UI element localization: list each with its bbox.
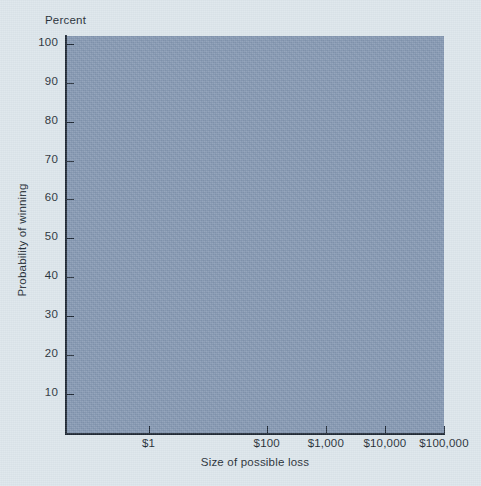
y-axis-unit-label: Percent bbox=[45, 14, 86, 26]
x-axis-tick-mark bbox=[149, 426, 150, 433]
y-axis-tick-mark bbox=[67, 83, 74, 84]
y-axis-tick-label: 90 bbox=[0, 75, 58, 87]
y-axis-tick-mark bbox=[67, 122, 74, 123]
y-axis-tick-mark bbox=[67, 44, 74, 45]
y-axis-tick-label: 60 bbox=[0, 191, 58, 203]
y-axis-tick-mark bbox=[67, 277, 74, 278]
x-axis-title: Size of possible loss bbox=[66, 456, 444, 468]
x-axis-tick-mark bbox=[385, 426, 386, 433]
x-axis-tick-mark bbox=[326, 426, 327, 433]
y-axis-tick-mark bbox=[67, 238, 74, 239]
y-axis-tick-mark bbox=[67, 161, 74, 162]
y-axis-tick-label: 100 bbox=[0, 36, 58, 48]
y-axis-tick-label: 30 bbox=[0, 308, 58, 320]
x-axis-tick-label: $10,000 bbox=[363, 437, 406, 449]
y-axis-tick-label: 40 bbox=[0, 269, 58, 281]
x-axis-tick-mark bbox=[267, 426, 268, 433]
x-axis-line bbox=[65, 433, 445, 435]
x-axis-tick-label: $1,000 bbox=[308, 437, 344, 449]
y-axis-tick-label: 80 bbox=[0, 114, 58, 126]
plot-area bbox=[66, 36, 444, 433]
y-axis-tick-label: 50 bbox=[0, 230, 58, 242]
plot-fill-texture bbox=[66, 36, 444, 433]
chart-figure: Percent Probability of winning Size of p… bbox=[0, 0, 481, 486]
y-axis-tick-label: 10 bbox=[0, 386, 58, 398]
x-axis-tick-label: $100 bbox=[254, 437, 280, 449]
y-axis-tick-label: 70 bbox=[0, 153, 58, 165]
y-axis-tick-mark bbox=[67, 355, 74, 356]
x-axis-tick-mark bbox=[444, 426, 445, 433]
y-axis-tick-label: 20 bbox=[0, 347, 58, 359]
y-axis-tick-mark bbox=[67, 199, 74, 200]
y-axis-line bbox=[65, 35, 67, 435]
x-axis-tick-label: $1 bbox=[142, 437, 155, 449]
y-axis-tick-mark bbox=[67, 316, 74, 317]
y-axis-tick-mark bbox=[67, 394, 74, 395]
x-axis-tick-label: $100,000 bbox=[419, 437, 469, 449]
